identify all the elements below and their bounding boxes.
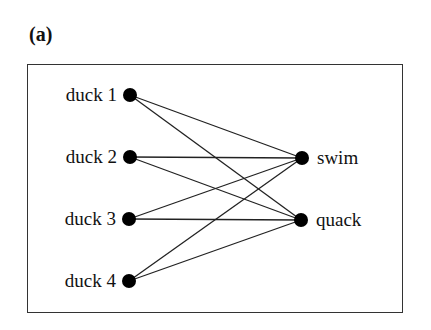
node-duck2 [123, 150, 137, 164]
node-label-duck1: duck 1 [66, 84, 117, 105]
edge-duck3-swim [129, 158, 302, 219]
node-label-duck3: duck 3 [65, 208, 116, 229]
node-duck1 [123, 88, 137, 102]
edge-duck1-swim [130, 95, 302, 158]
edge-duck4-quack [129, 220, 301, 281]
node-label-duck4: duck 4 [65, 270, 117, 291]
bipartite-graph: duck 1duck 2duck 3duck 4swimquack [0, 0, 431, 330]
node-label-duck2: duck 2 [66, 146, 117, 167]
node-duck3 [122, 212, 136, 226]
node-duck4 [122, 274, 136, 288]
edge-duck2-swim [130, 157, 302, 158]
node-label-swim: swim [317, 147, 358, 168]
node-quack [294, 213, 308, 227]
edges-group [129, 95, 302, 281]
node-label-quack: quack [316, 209, 362, 230]
node-swim [295, 151, 309, 165]
